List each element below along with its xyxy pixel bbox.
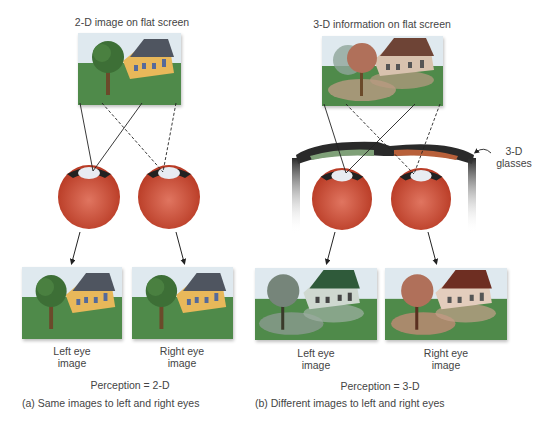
left-eye-image-b (255, 268, 377, 340)
right-eye-a (137, 160, 201, 230)
perception-a: Perception = 2-D (80, 379, 180, 391)
right-eye-label-b-line1: Right eye (416, 347, 476, 359)
right-eye-image-b (385, 268, 507, 340)
right-eye-image-a (132, 267, 233, 339)
panel-a-screen-label: 2-D image on flat screen (72, 16, 192, 28)
left-eye-a (57, 160, 121, 230)
left-eye-label-a: Left eye image (42, 345, 102, 369)
left-eye-image-a (22, 267, 122, 339)
flat-screen-image-3d (322, 36, 443, 106)
caption-b: (b) Different images to left and right e… (255, 397, 475, 409)
glasses-label-line2: glasses (490, 157, 538, 169)
right-eye-label-a: Right eye image (152, 345, 212, 369)
left-eye-label-b: Left eye image (286, 347, 346, 371)
left-eye-label-b-line2: image (286, 359, 346, 371)
right-eye-label-a-line1: Right eye (152, 345, 212, 357)
caption-a: (a) Same images to left and right eyes (22, 397, 202, 409)
right-eye-label-a-line2: image (152, 357, 212, 369)
right-eye-label-b: Right eye image (416, 347, 476, 371)
perception-b: Perception = 3-D (330, 380, 430, 392)
glasses-label: 3-D glasses (490, 145, 538, 169)
glasses-label-line1: 3-D (490, 145, 538, 157)
flat-screen-image-2d (78, 33, 181, 105)
left-eye-label-b-line1: Left eye (286, 347, 346, 359)
right-eye-label-b-line2: image (416, 359, 476, 371)
left-eye-label-a-line2: image (42, 357, 102, 369)
left-eye-b (311, 163, 373, 231)
right-eye-b (390, 163, 452, 231)
panel-b-screen-label: 3-D information on flat screen (312, 18, 452, 30)
left-eye-label-a-line1: Left eye (42, 345, 102, 357)
